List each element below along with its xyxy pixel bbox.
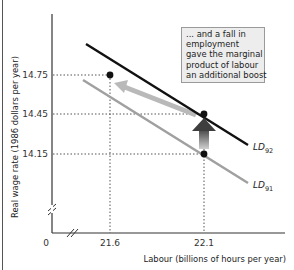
annotation-line: employment (186, 39, 261, 49)
guide-lines (53, 75, 204, 233)
annotation-line: product of labour (186, 60, 261, 70)
x-tick-22.1: 22.1 (194, 238, 214, 248)
x-tick-0: 0 (43, 238, 49, 248)
annotation-line: ... and a fall in (186, 29, 261, 39)
x-tick-21.6: 21.6 (100, 238, 120, 248)
ld92-label: LD92 (253, 142, 273, 155)
x-axis-title: Labour (billions of hours per year) (144, 254, 286, 264)
movement-arrow-icon (114, 80, 196, 115)
ld91-curve (83, 80, 248, 183)
point-22.1-14.15 (201, 151, 208, 158)
point-21.6-14.75 (107, 72, 114, 79)
y-tick-14.45: 14.45 (22, 109, 48, 119)
point-22.1-14.45 (201, 111, 208, 118)
annotation-box: ... and a fall in employment gave the ma… (181, 27, 265, 83)
y-tick-14.15: 14.15 (22, 149, 48, 159)
annotation-line: gave the marginal (186, 49, 261, 59)
ld91-label: LD91 (253, 180, 273, 193)
y-tick-14.75: 14.75 (22, 70, 48, 80)
y-axis-title: Real wage rate (1986 dollars per year) (10, 56, 20, 218)
annotation-line: an additional boost (186, 70, 261, 80)
